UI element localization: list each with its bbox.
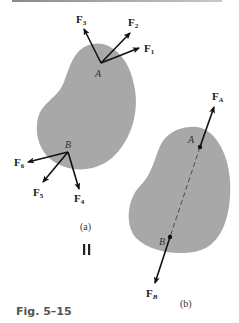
point-label-b-b: B [159,236,165,247]
force-label-f6: F6 [14,156,25,170]
rigid-body-b [129,127,230,253]
point-b-dot [168,235,172,239]
force-label-f1: F1 [144,42,155,56]
force-label-f3: F3 [76,13,87,27]
subfigure-label-b: (b) [180,298,192,310]
figure-canvas: A F1 F2 F3 B F4 F5 F6 (a) A B FA FB (b) [0,0,239,323]
subfigure-label-a: (a) [80,221,91,233]
point-label-a-b: A [187,134,195,145]
force-label-f2: F2 [128,16,139,30]
point-label-a: A [94,68,102,79]
rigid-body-a [37,43,136,169]
force-label-fb: FB [146,287,158,301]
point-label-b: B [65,139,71,150]
figure-caption: Fig. 5–15 [16,305,72,318]
force-label-f5: F5 [33,186,44,200]
point-a-dot [198,145,202,149]
equivalence-symbol [83,244,90,255]
force-label-f4: F4 [74,192,85,206]
force-label-fa: FA [212,90,224,104]
